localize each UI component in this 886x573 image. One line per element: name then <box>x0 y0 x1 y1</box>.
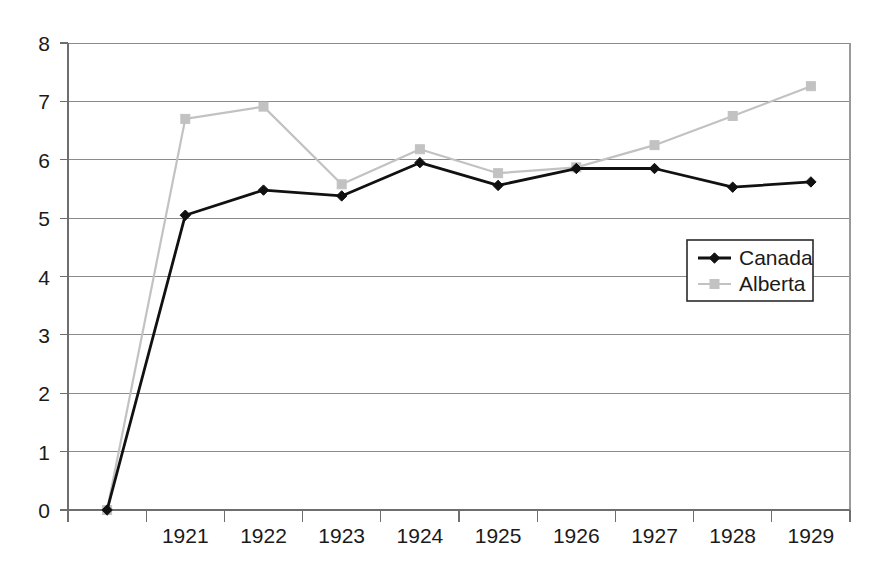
y-tick-label-6: 6 <box>38 149 50 172</box>
datapoint-alberta-1927 <box>650 141 659 150</box>
y-tick-label-3: 3 <box>38 324 50 347</box>
legend-marker-alberta <box>710 280 719 289</box>
datapoint-alberta-1929 <box>806 82 815 91</box>
x-tick-label-1922: 1922 <box>240 524 287 547</box>
y-tick-label-7: 7 <box>38 90 50 113</box>
x-tick-label-1925: 1925 <box>475 524 522 547</box>
datapoint-alberta-1922 <box>259 102 268 111</box>
legend-label-canada: Canada <box>739 246 813 269</box>
y-tick-label-1: 1 <box>38 441 50 464</box>
x-tick-label-1926: 1926 <box>553 524 600 547</box>
x-tick-label-1921: 1921 <box>162 524 209 547</box>
x-tick-label-1927: 1927 <box>631 524 678 547</box>
y-tick-label-2: 2 <box>38 382 50 405</box>
y-tick-label-4: 4 <box>38 266 50 289</box>
legend-label-alberta: Alberta <box>739 272 806 295</box>
line-chart: 012345678 192119221923192419251926192719… <box>0 0 886 573</box>
datapoint-alberta-1921 <box>181 114 190 123</box>
datapoint-alberta-1925 <box>494 169 503 178</box>
chart-legend: CanadaAlberta <box>687 240 813 301</box>
x-tick-label-1924: 1924 <box>397 524 444 547</box>
y-tick-label-0: 0 <box>38 499 50 522</box>
datapoint-alberta-1923 <box>337 180 346 189</box>
datapoint-alberta-1924 <box>415 145 424 154</box>
y-tick-label-5: 5 <box>38 207 50 230</box>
datapoint-alberta-1928 <box>728 111 737 120</box>
y-tick-label-8: 8 <box>38 32 50 55</box>
x-tick-label-1928: 1928 <box>709 524 756 547</box>
x-tick-label-1923: 1923 <box>318 524 365 547</box>
x-tick-label-1929: 1929 <box>788 524 835 547</box>
chart-canvas: 012345678 192119221923192419251926192719… <box>0 0 886 573</box>
x-axis-tick-labels: 192119221923192419251926192719281929 <box>162 524 834 547</box>
